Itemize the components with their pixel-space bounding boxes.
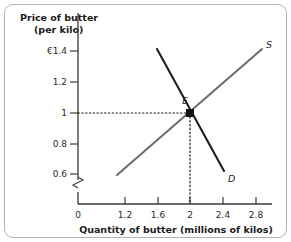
equilibrium-point-label: E: [182, 96, 188, 106]
equilibrium-point-marker: [186, 109, 194, 117]
demand-curve-label: D: [228, 173, 235, 184]
y-axis-ticks: [70, 51, 78, 174]
y-tick-label-1.2: 1.2: [53, 77, 67, 87]
y-tick-label-1: 1: [61, 108, 67, 118]
y-tick-label-1.4: €1.4: [47, 46, 67, 56]
x-tick-label-0: 0: [75, 210, 81, 220]
x-tick-label-1.2: 1.2: [118, 210, 132, 220]
y-tick-label-0.6: 0.6: [53, 169, 68, 179]
x-tick-label-2: 2: [187, 210, 193, 220]
x-tick-label-2.4: 2.4: [216, 210, 231, 220]
y-tick-label-0.8: 0.8: [53, 139, 68, 149]
x-tick-label-2.8: 2.8: [249, 210, 264, 220]
y-axis-title-line1: Price of butter: [20, 12, 98, 23]
supply-curve-label: S: [266, 39, 272, 50]
y-axis-title-line2: (per kilo): [34, 24, 83, 35]
supply-demand-chart: Price of butter (per kilo) €1.4 1.2 1 0.…: [0, 0, 291, 242]
x-axis-title: Quantity of butter (millions of kilos): [79, 224, 273, 235]
x-tick-label-1.6: 1.6: [151, 210, 166, 220]
